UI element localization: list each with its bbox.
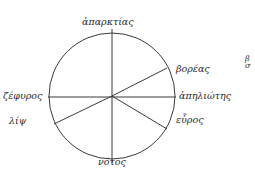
label-north-aparktias: ἀπαρκτίας — [82, 17, 134, 27]
label-south-notos: νότος — [98, 157, 126, 167]
label-southeast-euros: εὖρος — [176, 115, 204, 125]
margin-fragment: β σ — [245, 55, 253, 69]
label-southwest-lips: λίψ — [9, 116, 26, 126]
label-northeast-boreas: βορέας — [176, 64, 210, 74]
label-west-zephyros: ζέφυρος — [3, 91, 42, 101]
wind-rose-diagram: ἀπαρκτίας βορέας ἀπηλιώτης εὖρος νότος ζ… — [0, 0, 255, 170]
label-east-apeliotes: ἀπηλιώτης — [179, 91, 231, 101]
